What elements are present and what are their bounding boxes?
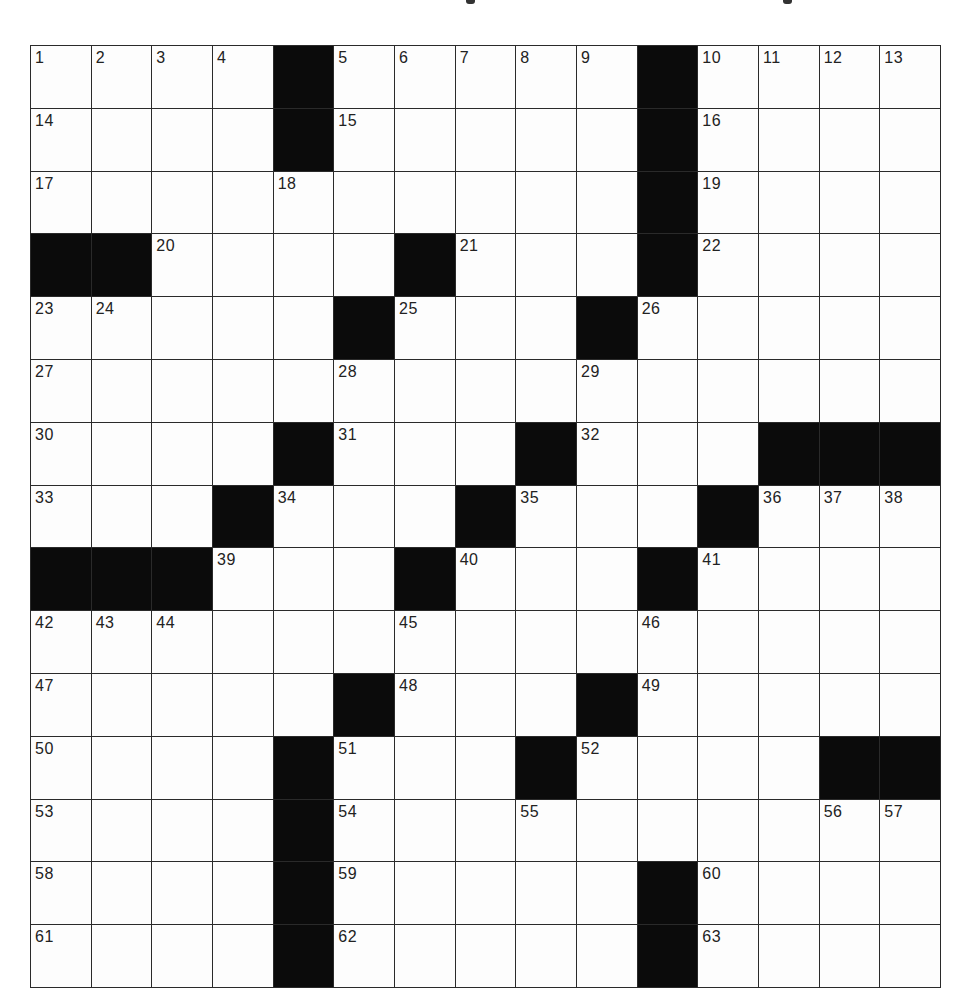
grid-cell[interactable]	[92, 109, 152, 171]
grid-cell[interactable]	[334, 172, 394, 234]
grid-cell[interactable]	[577, 800, 637, 862]
grid-cell[interactable]	[820, 862, 880, 924]
grid-cell[interactable]: 58	[31, 862, 91, 924]
grid-cell[interactable]	[577, 109, 637, 171]
grid-cell[interactable]	[820, 611, 880, 673]
grid-cell[interactable]	[698, 611, 758, 673]
grid-cell[interactable]	[456, 423, 516, 485]
grid-cell[interactable]	[456, 800, 516, 862]
grid-cell[interactable]	[334, 486, 394, 548]
grid-cell[interactable]	[152, 737, 212, 799]
grid-cell[interactable]: 9	[577, 46, 637, 108]
grid-cell[interactable]	[92, 862, 152, 924]
grid-cell[interactable]: 53	[31, 800, 91, 862]
grid-cell[interactable]	[456, 737, 516, 799]
grid-cell[interactable]: 5	[334, 46, 394, 108]
grid-cell[interactable]	[213, 423, 273, 485]
grid-cell[interactable]	[516, 674, 576, 736]
grid-cell[interactable]: 17	[31, 172, 91, 234]
grid-cell[interactable]: 11	[759, 46, 819, 108]
grid-cell[interactable]: 57	[880, 800, 940, 862]
grid-cell[interactable]	[880, 172, 940, 234]
grid-cell[interactable]: 35	[516, 486, 576, 548]
grid-cell[interactable]	[759, 360, 819, 422]
grid-cell[interactable]: 36	[759, 486, 819, 548]
grid-cell[interactable]	[395, 862, 455, 924]
grid-cell[interactable]	[820, 548, 880, 610]
grid-cell[interactable]	[759, 862, 819, 924]
grid-cell[interactable]: 12	[820, 46, 880, 108]
grid-cell[interactable]	[334, 234, 394, 296]
grid-cell[interactable]	[213, 611, 273, 673]
grid-cell[interactable]	[274, 674, 334, 736]
grid-cell[interactable]	[92, 360, 152, 422]
grid-cell[interactable]: 25	[395, 297, 455, 359]
grid-cell[interactable]	[152, 360, 212, 422]
grid-cell[interactable]: 24	[92, 297, 152, 359]
grid-cell[interactable]	[759, 172, 819, 234]
grid-cell[interactable]	[880, 862, 940, 924]
grid-cell[interactable]	[152, 297, 212, 359]
grid-cell[interactable]: 32	[577, 423, 637, 485]
grid-cell[interactable]	[577, 925, 637, 987]
grid-cell[interactable]	[880, 360, 940, 422]
grid-cell[interactable]: 22	[698, 234, 758, 296]
grid-cell[interactable]	[820, 674, 880, 736]
grid-cell[interactable]	[577, 486, 637, 548]
grid-cell[interactable]: 34	[274, 486, 334, 548]
grid-cell[interactable]	[456, 109, 516, 171]
grid-cell[interactable]: 1	[31, 46, 91, 108]
grid-cell[interactable]: 15	[334, 109, 394, 171]
grid-cell[interactable]	[334, 611, 394, 673]
grid-cell[interactable]	[759, 611, 819, 673]
grid-cell[interactable]	[395, 737, 455, 799]
grid-cell[interactable]	[213, 925, 273, 987]
grid-cell[interactable]: 10	[698, 46, 758, 108]
grid-cell[interactable]	[516, 297, 576, 359]
grid-cell[interactable]	[274, 611, 334, 673]
grid-cell[interactable]: 8	[516, 46, 576, 108]
grid-cell[interactable]	[152, 674, 212, 736]
grid-cell[interactable]: 4	[213, 46, 273, 108]
grid-cell[interactable]	[395, 800, 455, 862]
grid-cell[interactable]	[820, 360, 880, 422]
grid-cell[interactable]	[456, 172, 516, 234]
grid-cell[interactable]	[213, 234, 273, 296]
grid-cell[interactable]: 59	[334, 862, 394, 924]
grid-cell[interactable]	[638, 737, 698, 799]
grid-cell[interactable]: 2	[92, 46, 152, 108]
grid-cell[interactable]: 56	[820, 800, 880, 862]
grid-cell[interactable]	[577, 548, 637, 610]
grid-cell[interactable]	[213, 674, 273, 736]
grid-cell[interactable]	[516, 172, 576, 234]
grid-cell[interactable]	[577, 611, 637, 673]
grid-cell[interactable]: 6	[395, 46, 455, 108]
grid-cell[interactable]: 7	[456, 46, 516, 108]
grid-cell[interactable]: 31	[334, 423, 394, 485]
grid-cell[interactable]	[820, 297, 880, 359]
grid-cell[interactable]	[638, 800, 698, 862]
grid-cell[interactable]	[395, 109, 455, 171]
grid-cell[interactable]	[152, 800, 212, 862]
grid-cell[interactable]	[759, 109, 819, 171]
grid-cell[interactable]	[698, 297, 758, 359]
grid-cell[interactable]: 18	[274, 172, 334, 234]
grid-cell[interactable]	[638, 423, 698, 485]
grid-cell[interactable]: 38	[880, 486, 940, 548]
grid-cell[interactable]	[820, 109, 880, 171]
grid-cell[interactable]	[516, 925, 576, 987]
grid-cell[interactable]	[213, 862, 273, 924]
grid-cell[interactable]	[516, 109, 576, 171]
grid-cell[interactable]	[698, 360, 758, 422]
grid-cell[interactable]	[152, 423, 212, 485]
grid-cell[interactable]	[880, 611, 940, 673]
grid-cell[interactable]: 29	[577, 360, 637, 422]
grid-cell[interactable]	[456, 925, 516, 987]
grid-cell[interactable]	[759, 674, 819, 736]
grid-cell[interactable]	[516, 360, 576, 422]
grid-cell[interactable]	[577, 234, 637, 296]
grid-cell[interactable]	[274, 548, 334, 610]
grid-cell[interactable]	[456, 674, 516, 736]
grid-cell[interactable]: 51	[334, 737, 394, 799]
grid-cell[interactable]	[152, 862, 212, 924]
